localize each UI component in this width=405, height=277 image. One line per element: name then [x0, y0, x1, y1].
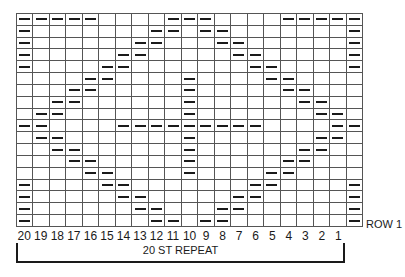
- purl-symbol-icon: [19, 125, 30, 127]
- chart-cell: [33, 132, 49, 144]
- chart-cell: [347, 26, 363, 38]
- chart-cell: [330, 61, 346, 73]
- column-number-labels: 2019181716151413121110987654321: [16, 229, 347, 243]
- chart-cell: [248, 191, 264, 203]
- purl-symbol-icon: [250, 184, 261, 186]
- chart-cell: [116, 144, 132, 156]
- chart-cell: [182, 180, 198, 192]
- chart-cell: [99, 61, 115, 73]
- chart-cell: [149, 144, 165, 156]
- chart-cell: [17, 144, 33, 156]
- purl-symbol-icon: [69, 101, 80, 103]
- purl-symbol-icon: [200, 18, 211, 20]
- chart-cell: [33, 49, 49, 61]
- chart-cell: [248, 215, 264, 227]
- chart-cell: [83, 156, 99, 168]
- chart-cell: [165, 26, 181, 38]
- purl-symbol-icon: [349, 125, 360, 127]
- chart-cell: [264, 120, 280, 132]
- chart-cell: [231, 203, 247, 215]
- column-number: 10: [181, 229, 198, 243]
- chart-cell: [314, 73, 330, 85]
- column-number: 12: [148, 229, 165, 243]
- chart-cell: [116, 132, 132, 144]
- purl-symbol-icon: [283, 172, 294, 174]
- chart-cell: [248, 120, 264, 132]
- purl-symbol-icon: [102, 172, 113, 174]
- chart-cell: [182, 97, 198, 109]
- chart-cell: [248, 156, 264, 168]
- chart-cell: [264, 38, 280, 50]
- chart-cell: [198, 61, 214, 73]
- chart-cell: [99, 168, 115, 180]
- chart-cell: [297, 38, 313, 50]
- chart-cell: [264, 14, 280, 26]
- chart-cell: [50, 132, 66, 144]
- column-number: 4: [281, 229, 298, 243]
- chart-cell: [264, 180, 280, 192]
- chart-cell: [165, 97, 181, 109]
- chart-cell: [17, 49, 33, 61]
- chart-cell: [182, 215, 198, 227]
- chart-cell: [182, 191, 198, 203]
- chart-cell: [182, 144, 198, 156]
- chart-cell: [264, 144, 280, 156]
- chart-cell: [83, 97, 99, 109]
- chart-cell: [99, 215, 115, 227]
- purl-symbol-icon: [52, 137, 63, 139]
- column-number: 15: [99, 229, 116, 243]
- chart-cell: [297, 109, 313, 121]
- chart-cell: [132, 168, 148, 180]
- chart-cell: [83, 120, 99, 132]
- chart-cell: [116, 109, 132, 121]
- chart-cell: [99, 203, 115, 215]
- chart-cell: [33, 120, 49, 132]
- chart-cell: [297, 26, 313, 38]
- purl-symbol-icon: [250, 54, 261, 56]
- purl-symbol-icon: [102, 78, 113, 80]
- chart-cell: [132, 73, 148, 85]
- purl-symbol-icon: [69, 149, 80, 151]
- purl-symbol-icon: [299, 18, 310, 20]
- chart-cell: [149, 38, 165, 50]
- purl-symbol-icon: [349, 54, 360, 56]
- chart-cell: [66, 203, 82, 215]
- chart-cell: [116, 26, 132, 38]
- chart-cell: [99, 97, 115, 109]
- column-number: 14: [115, 229, 132, 243]
- purl-symbol-icon: [85, 160, 96, 162]
- chart-cell: [116, 49, 132, 61]
- column-number: 13: [132, 229, 149, 243]
- chart-cell: [264, 203, 280, 215]
- chart-cell: [17, 38, 33, 50]
- purl-symbol-icon: [118, 125, 129, 127]
- purl-symbol-icon: [217, 125, 228, 127]
- purl-symbol-icon: [184, 101, 195, 103]
- chart-cell: [264, 215, 280, 227]
- column-number: 3: [297, 229, 314, 243]
- chart-cell: [17, 85, 33, 97]
- chart-cell: [281, 73, 297, 85]
- chart-cell: [231, 38, 247, 50]
- chart-cell: [50, 14, 66, 26]
- knitting-chart-grid: [16, 13, 363, 227]
- chart-cell: [314, 156, 330, 168]
- chart-cell: [330, 156, 346, 168]
- chart-cell: [182, 168, 198, 180]
- chart-cell: [215, 144, 231, 156]
- chart-cell: [248, 61, 264, 73]
- purl-symbol-icon: [19, 30, 30, 32]
- chart-cell: [297, 168, 313, 180]
- purl-symbol-icon: [19, 18, 30, 20]
- chart-cell: [50, 203, 66, 215]
- chart-cell: [198, 215, 214, 227]
- chart-cell: [165, 14, 181, 26]
- chart-cell: [149, 215, 165, 227]
- chart-cell: [281, 203, 297, 215]
- purl-symbol-icon: [168, 18, 179, 20]
- chart-cell: [99, 132, 115, 144]
- chart-cell: [231, 49, 247, 61]
- chart-cell: [17, 109, 33, 121]
- chart-cell: [215, 191, 231, 203]
- chart-cell: [66, 97, 82, 109]
